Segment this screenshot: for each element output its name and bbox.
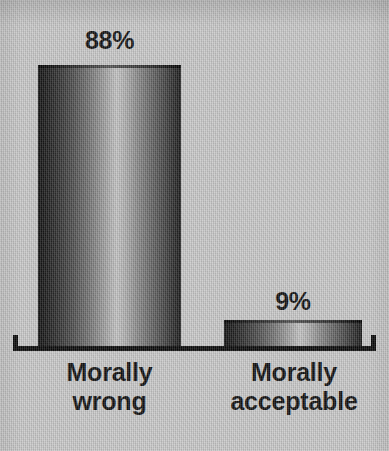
bar-value-label-morally-acceptable: 9% <box>224 287 362 316</box>
x-axis-label-line-2: wrong <box>22 387 197 416</box>
x-axis-label-line-1: Morally <box>251 358 337 386</box>
x-axis-label-line-2: acceptable <box>204 387 384 416</box>
x-axis-line <box>13 346 376 351</box>
axis-tick-right-icon <box>371 335 376 348</box>
bar-top-edge <box>38 65 181 68</box>
bar-morally-acceptable <box>224 320 362 348</box>
axis-tick-left-icon <box>13 335 18 348</box>
bar-chart: 88% 9% Morally wrong Morally acceptable <box>0 0 389 451</box>
bar-top-edge <box>224 320 362 323</box>
bar-morally-wrong <box>38 65 181 348</box>
bar-value-label-morally-wrong: 88% <box>38 26 181 55</box>
bar-fill <box>224 320 362 348</box>
bar-fill <box>38 65 181 348</box>
x-axis-label-morally-wrong: Morally wrong <box>22 358 197 416</box>
x-axis-label-line-1: Morally <box>66 358 152 386</box>
x-axis-label-morally-acceptable: Morally acceptable <box>204 358 384 416</box>
